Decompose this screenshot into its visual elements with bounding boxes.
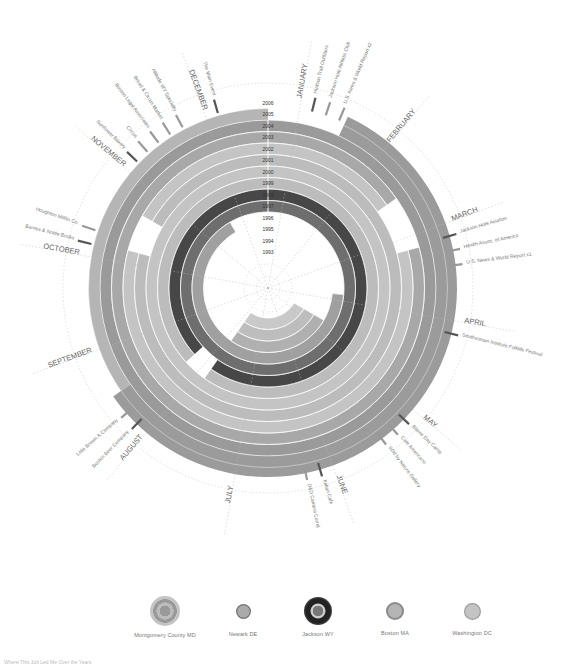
- event-label: Health Assoc. of America: [463, 232, 519, 249]
- month-label: MAY: [422, 413, 440, 430]
- year-label: 1996: [262, 215, 273, 221]
- month-label: JUNE: [335, 474, 350, 495]
- year-label: 1993: [262, 249, 273, 255]
- event-label: D&D Camera Corral: [307, 483, 322, 528]
- montgomery-swatch-icon: [150, 596, 180, 626]
- month-label: JANUARY: [295, 63, 310, 99]
- year-label: 2000: [262, 169, 273, 175]
- year-label: 2006: [262, 100, 273, 106]
- washington-swatch-icon: [464, 603, 481, 620]
- year-label: 2004: [262, 123, 273, 129]
- month-label: NOVEMBER: [89, 134, 128, 169]
- event-label: U.S. News & World Report x1: [466, 251, 532, 265]
- year-label: 2002: [262, 146, 273, 152]
- legend-label: Washington DC: [412, 630, 532, 636]
- event-label: Circus: [125, 124, 139, 139]
- footnote: Where This Job Led Me Over the Years: [4, 659, 91, 665]
- year-label: 1994: [262, 238, 273, 244]
- month-label: SEPTEMBER: [47, 345, 94, 369]
- year-label: 2001: [262, 157, 273, 163]
- event-label: Hudson Trail Outfitters: [312, 44, 330, 94]
- legend: Montgomery County MD Newark DE Jackson W…: [0, 596, 571, 656]
- month-label: OCTOBER: [43, 241, 82, 256]
- year-label: 1998: [262, 192, 273, 198]
- boston-swatch-icon: [386, 602, 404, 620]
- year-label: 2005: [262, 111, 273, 117]
- year-label: 1997: [262, 203, 273, 209]
- month-label: APRIL: [464, 316, 487, 329]
- legend-item-washington: Washington DC: [412, 596, 532, 636]
- year-label: 1999: [262, 180, 273, 186]
- month-label: MARCH: [450, 205, 479, 223]
- year-label: 1995: [262, 226, 273, 232]
- month-label: JULY: [223, 485, 235, 504]
- event-label: Barnes & Noble Books: [25, 223, 76, 241]
- year-label: 2003: [262, 134, 273, 140]
- month-label: FEBRUARY: [385, 107, 418, 144]
- event-label: Little Brown & Company: [75, 416, 120, 456]
- newark-swatch-icon: [236, 604, 251, 619]
- event-label: Houghton Mifflin Co.: [35, 205, 80, 225]
- event-label: Italian Cafe: [322, 479, 335, 505]
- jackson-swatch-icon: [304, 597, 332, 625]
- radial-chart: 1993199419951996199719981999200020012002…: [0, 0, 571, 669]
- event-label: Smithsonian Institute Folklife Festival: [462, 332, 543, 358]
- year-rings: [89, 109, 458, 478]
